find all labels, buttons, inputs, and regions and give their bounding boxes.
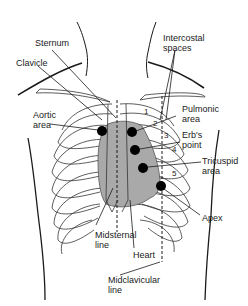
label-pulmonic-area: Pulmonic area [182,104,219,124]
clavicle-bones [36,89,205,102]
intercostal-number-3: 3 [164,132,168,140]
neck-outline [77,22,156,78]
label-heart: Heart [133,250,155,260]
label-intercostal-spaces: Intercostal spaces [163,33,205,53]
label-apex: Apex [202,213,223,223]
apex-dot [156,181,166,191]
label-midclavicular-line: Midclavicular line [108,275,160,295]
label-erbs-point: Erb's point [182,130,202,150]
label-aortic-area: Aortic area [33,110,56,130]
intercostal-number-5: 5 [172,170,176,178]
erbs-point-dot [130,145,140,155]
intercostal-number-2: 2 [153,120,157,128]
label-clavicle: Clavicle [16,58,48,68]
intercostal-number-1: 1 [144,108,148,116]
label-tricuspid-area: Tricuspid area [202,156,238,176]
pulmonic-area-dot [127,127,137,137]
label-sternum: Sternum [35,38,69,48]
tricuspid-area-dot [138,163,148,173]
aortic-area-dot [97,126,107,136]
intercostal-number-4: 4 [172,146,176,154]
label-midsternal-line: Midsternal line [95,230,137,250]
